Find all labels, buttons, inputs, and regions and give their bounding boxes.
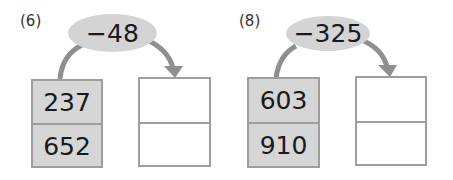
- input-box: 237 652: [31, 79, 103, 168]
- answer-field[interactable]: [140, 124, 209, 167]
- answer-box: [355, 76, 427, 166]
- answer-field[interactable]: [357, 123, 425, 166]
- input-value: 237: [33, 81, 101, 123]
- operator-oval: −325: [286, 16, 370, 51]
- arc-out-8: [364, 41, 387, 67]
- arc-in-8: [276, 46, 296, 78]
- problem-label: (8): [239, 12, 260, 30]
- problem-label: (6): [20, 12, 41, 30]
- answer-box: [138, 77, 211, 167]
- operator-oval: −48: [68, 14, 157, 52]
- input-value: 652: [33, 125, 101, 167]
- input-value: 910: [249, 124, 318, 166]
- answer-field[interactable]: [357, 78, 425, 123]
- arc-out-6: [149, 41, 173, 68]
- input-value: 603: [249, 79, 318, 122]
- arc-in-6: [60, 45, 82, 79]
- input-box: 603 910: [247, 77, 320, 168]
- answer-field[interactable]: [140, 79, 209, 124]
